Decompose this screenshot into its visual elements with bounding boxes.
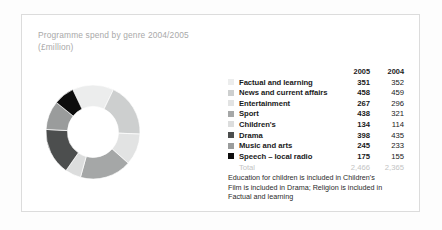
table-row: Entertainment267296 [228, 99, 404, 110]
legend-swatch-icon [228, 153, 234, 159]
table-header-row: 2005 2004 [228, 67, 404, 78]
total-label: Total [239, 162, 336, 173]
legend-swatch-cell [228, 152, 239, 163]
legend-label: Entertainment [239, 99, 336, 110]
donut-slice-group [46, 85, 140, 179]
table-row: Drama398435 [228, 131, 404, 142]
legend-body: Factual and learning351352News and curre… [228, 78, 404, 163]
value-2004: 459 [370, 88, 404, 99]
table-row: Children's134114 [228, 120, 404, 131]
donut-chart-svg [44, 83, 142, 181]
total-swatch-cell [228, 162, 239, 173]
legend-swatch-icon [228, 100, 234, 106]
legend-swatch-icon [228, 111, 234, 117]
value-2005: 175 [336, 152, 370, 163]
legend-swatch-cell [228, 88, 239, 99]
value-2005: 267 [336, 99, 370, 110]
value-2004: 352 [370, 78, 404, 89]
legend-swatch-cell [228, 78, 239, 89]
value-2004: 233 [370, 141, 404, 152]
legend-swatch-icon [228, 90, 234, 96]
value-2004: 321 [370, 109, 404, 120]
legend-label: News and current affairs [239, 88, 336, 99]
value-2004: 114 [370, 120, 404, 131]
page-title: Programme spend by genre 2004/2005 (£mil… [38, 30, 258, 53]
column-header-2004: 2004 [370, 67, 404, 78]
value-2004: 155 [370, 152, 404, 163]
legend-swatch-cell [228, 131, 239, 142]
legend-table-block: 2005 2004 Factual and learning351352News… [228, 67, 408, 173]
value-2005: 398 [336, 131, 370, 142]
value-2005: 351 [336, 78, 370, 89]
legend-label: Drama [239, 131, 336, 142]
legend-swatch-icon [228, 121, 234, 127]
legend-swatch-icon [228, 79, 234, 85]
legend-swatch-cell [228, 141, 239, 152]
legend-swatch-cell [228, 120, 239, 131]
legend-swatch-cell [228, 109, 239, 120]
value-2005: 438 [336, 109, 370, 120]
table-row: Factual and learning351352 [228, 78, 404, 89]
legend-swatch-icon [228, 132, 234, 138]
programme-spend-figure: Programme spend by genre 2004/2005 (£mil… [0, 0, 442, 230]
legend-label: Children's [239, 120, 336, 131]
legend-swatch-icon [228, 143, 234, 149]
value-2004: 435 [370, 131, 404, 142]
donut-chart [44, 83, 142, 181]
value-2005: 245 [336, 141, 370, 152]
table-row: Sport438321 [228, 109, 404, 120]
legend-label: Sport [239, 109, 336, 120]
total-value-2004: 2,365 [370, 162, 404, 173]
legend-label: Speech – local radio [239, 152, 336, 163]
table-row: Speech – local radio175155 [228, 152, 404, 163]
table-row-total: Total 2,466 2,365 [228, 162, 404, 173]
legend-table: 2005 2004 Factual and learning351352News… [228, 67, 404, 173]
value-2005: 134 [336, 120, 370, 131]
column-header-2005: 2005 [336, 67, 370, 78]
value-2005: 458 [336, 88, 370, 99]
legend-label: Factual and learning [239, 78, 336, 89]
table-row: Music and arts245233 [228, 141, 404, 152]
footnote-text: Education for children is included in Ch… [228, 173, 396, 202]
legend-label: Music and arts [239, 141, 336, 152]
header-spacer [228, 67, 336, 78]
value-2004: 296 [370, 99, 404, 110]
table-row: News and current affairs458459 [228, 88, 404, 99]
legend-swatch-cell [228, 99, 239, 110]
total-value-2005: 2,466 [336, 162, 370, 173]
